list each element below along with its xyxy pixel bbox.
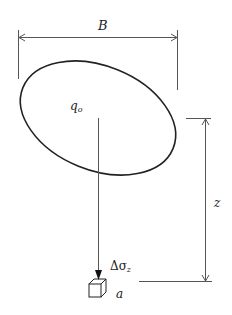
point-label: a (116, 287, 123, 301)
soil-element-cube-icon (89, 279, 106, 297)
load-label: qo (70, 99, 83, 114)
stress-label: Δσz (110, 259, 132, 274)
depth-label: z (213, 196, 221, 210)
depth-dimension: z (139, 119, 221, 282)
stress-diagram: B qo Δσz a z (0, 0, 232, 315)
width-label: B (97, 18, 108, 33)
width-dimension: B (19, 18, 178, 90)
